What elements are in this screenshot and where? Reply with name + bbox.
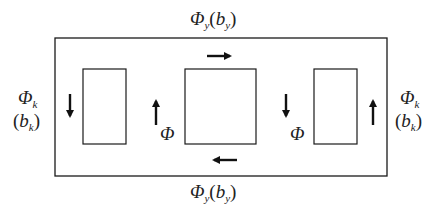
top-yoke-flux-label: Φy(by) — [190, 9, 236, 31]
right-window — [314, 69, 357, 144]
paren-close: ) — [230, 181, 236, 202]
subscript: k — [32, 98, 37, 110]
center-left-flux-label: Φ — [160, 124, 174, 143]
phi-symbol: Φ — [18, 87, 32, 108]
paren-close: ) — [230, 8, 236, 29]
b-symbol: b — [19, 110, 29, 131]
phi-symbol: Φ — [190, 8, 204, 29]
paren-close: ) — [34, 110, 40, 131]
left-limb-flux-label: Φk — [18, 88, 37, 110]
paren-close: ) — [416, 110, 422, 131]
bottom-yoke-flux-label: Φy(by) — [190, 182, 236, 204]
phi-symbol: Φ — [400, 87, 414, 108]
center-window — [185, 69, 256, 144]
phi-symbol: Φ — [190, 181, 204, 202]
left-limb-induction-label: (bk) — [13, 111, 40, 133]
subscript: k — [414, 98, 419, 110]
b-symbol: b — [216, 181, 226, 202]
right-limb-induction-label: (bk) — [395, 111, 422, 133]
left-window — [83, 69, 126, 144]
b-symbol: b — [401, 110, 411, 131]
right-limb-flux-label: Φk — [400, 88, 419, 110]
center-right-flux-label: Φ — [290, 124, 304, 143]
b-symbol: b — [216, 8, 226, 29]
outer-core-frame — [55, 38, 387, 176]
